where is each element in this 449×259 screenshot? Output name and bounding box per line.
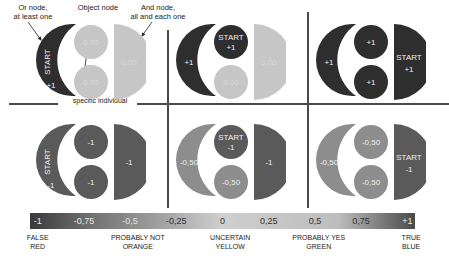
legend-line-2: GREEN (292, 243, 345, 252)
node-value-label: +1 (184, 58, 194, 67)
panel-top-middle: +1START+10,000,00 (176, 18, 286, 108)
or-node-crescent (36, 24, 76, 96)
node-value-label: START (43, 49, 52, 75)
panel-bottom-middle: -0,50START-1-0,50-1 (176, 118, 286, 208)
object-node-circle (214, 125, 248, 159)
and-node-half-disk (394, 24, 426, 100)
node-value-label: -0,50 (222, 178, 241, 187)
legend-line-1: TRUE (402, 234, 421, 243)
scale-tick-label: -0,25 (166, 213, 187, 229)
node-value-label: -1 (87, 178, 95, 187)
node-value-label: -0,50 (320, 158, 339, 167)
node-value-label: -1 (125, 158, 133, 167)
legend-line-2: BLUE (402, 243, 421, 252)
legend-line-1: PROBABLY YES (292, 234, 345, 243)
legend-line-2: RED (27, 243, 49, 252)
scale-tick-label: +1 (402, 213, 412, 229)
node-value-label: -0,50 (180, 158, 199, 167)
node-value-label: -1 (47, 181, 55, 190)
node-value-label: -1 (227, 143, 235, 152)
scale-legend-item: FALSERED (27, 234, 49, 251)
node-value-label: +1 (366, 38, 376, 47)
scale-tick-label: 0 (220, 213, 225, 229)
node-value-label: -1 (87, 138, 95, 147)
legend-line-2: YELLOW (210, 243, 250, 252)
node-value-label: +1 (226, 43, 236, 52)
scale-legend-item: TRUEBLUE (402, 234, 421, 251)
or-node-crescent (176, 24, 216, 96)
node-value-label: -1 (405, 165, 413, 174)
node-value-label: -1 (265, 158, 273, 167)
panel-top-right: +1+1+1START+1 (316, 18, 426, 108)
scale-tick-label: -1 (34, 213, 42, 229)
legend-line-2: ORANGE (111, 243, 165, 252)
or-node-crescent (36, 124, 76, 196)
node-value-label: 0,00 (83, 38, 99, 47)
node-value-label: START (396, 153, 422, 162)
scale-legend-item: UNCERTAINYELLOW (210, 234, 250, 251)
scale-tick-label: -0,75 (74, 213, 95, 229)
node-value-label: START (396, 53, 422, 62)
node-value-label: 0,00 (83, 78, 99, 87)
scale-tick-label: -0,5 (122, 213, 138, 229)
node-value-label: +1 (366, 78, 376, 87)
panel-top-left: START+10,000,000,00 (36, 18, 146, 108)
node-value-label: 0,00 (261, 58, 277, 67)
node-value-label: +1 (46, 81, 56, 90)
node-value-label: -0,50 (362, 178, 381, 187)
node-value-label: +1 (404, 65, 414, 74)
scale-tick-label: 0,25 (260, 213, 278, 229)
object-node-circle (214, 25, 248, 59)
legend-line-1: PROBABLY NOT (111, 234, 165, 243)
node-value-label: -0,50 (362, 138, 381, 147)
node-value-label: START (43, 149, 52, 175)
scale-tick-label: 0,5 (309, 213, 322, 229)
and-node-half-disk (394, 124, 426, 200)
scale-legend-item: PROBABLY YESGREEN (292, 234, 345, 251)
node-value-label: 0,00 (121, 58, 137, 67)
node-value-label: 0,00 (223, 78, 239, 87)
scale-tick-label: 0,75 (352, 213, 370, 229)
scale-legend-item: PROBABLY NOTORANGE (111, 234, 165, 251)
legend-line-1: UNCERTAIN (210, 234, 250, 243)
truth-scale-bar: -1-0,75-0,5-0,2500,250,50,75+1 (30, 213, 415, 229)
divider-vertical-1 (167, 30, 169, 208)
panel-bottom-right: -0,50-0,50-0,50START-1 (316, 118, 426, 208)
divider-vertical-2 (307, 12, 309, 208)
panel-bottom-left: START-1-1-1-1 (36, 118, 146, 208)
node-value-label: START (218, 133, 244, 142)
legend-line-1: FALSE (27, 234, 49, 243)
node-value-label: START (218, 33, 244, 42)
or-node-crescent (316, 24, 356, 96)
node-value-label: +1 (324, 58, 334, 67)
